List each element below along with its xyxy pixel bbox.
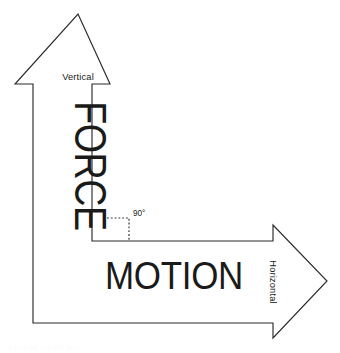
force-label: FORCE [65,101,114,231]
diagram-canvas: 90° Vertical FORCE MOTION Horizontal a l… [0,0,340,353]
horizontal-label: Horizontal [268,260,278,303]
bent-arrow-diagram: 90° Vertical FORCE MOTION Horizontal [0,0,340,353]
motion-label: MOTION [105,253,243,297]
angle-label: 90° [133,209,145,218]
vertical-label: Vertical [62,72,94,82]
